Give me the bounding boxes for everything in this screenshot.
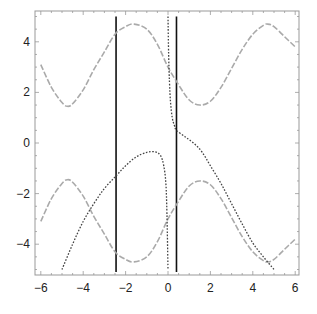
x-tick-label: 6 xyxy=(292,281,299,295)
x-axis-tick-labels: −6−4−20246 xyxy=(34,281,299,295)
vertical-lines xyxy=(116,17,176,273)
x-tick-label: 0 xyxy=(165,281,172,295)
series-group xyxy=(41,17,295,270)
x-tick-label: 2 xyxy=(207,281,214,295)
chart: −6−4−20246 −4−2024 xyxy=(0,0,317,314)
y-tick-label: 4 xyxy=(23,35,30,49)
y-tick-label: −2 xyxy=(16,187,30,201)
y-tick-label: 2 xyxy=(23,85,30,99)
x-tick-label: −6 xyxy=(34,281,48,295)
dotted-curve-right-branch xyxy=(168,17,274,270)
x-tick-label: −4 xyxy=(76,281,90,295)
y-tick-label: −4 xyxy=(16,237,30,251)
y-tick-label: 0 xyxy=(23,136,30,150)
y-axis-tick-labels: −4−2024 xyxy=(16,35,30,251)
x-tick-label: 4 xyxy=(249,281,256,295)
x-tick-label: −2 xyxy=(119,281,133,295)
